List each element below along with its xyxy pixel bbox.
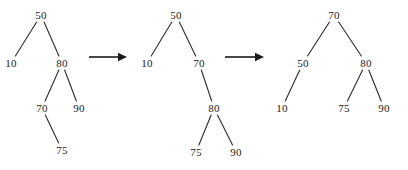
tree-edge [285, 70, 299, 101]
tree-edge [179, 22, 195, 56]
tree-node-label: 80 [360, 58, 372, 69]
tree-node-label: 10 [276, 103, 288, 114]
tree-node-label: 90 [230, 147, 242, 158]
tree-node-label: 90 [73, 103, 85, 114]
tree-node-label: 10 [5, 58, 17, 69]
tree-node-label: 50 [297, 58, 309, 69]
tree-edge [45, 115, 58, 143]
tree-node-label: 80 [56, 58, 68, 69]
tree-edge [339, 22, 362, 56]
tree-node-label: 50 [170, 10, 182, 21]
tree-edge [347, 70, 362, 101]
tree-node-label: 90 [378, 103, 390, 114]
tree-edge [308, 22, 330, 56]
tree-node-label: 70 [328, 10, 340, 21]
tree-edge [218, 115, 233, 145]
bst-rotation-figure: 501080709075501070807590705080107590 [0, 0, 408, 170]
transition-arrow-head [118, 53, 127, 61]
tree-edge [15, 22, 36, 56]
tree-node-label: 50 [35, 10, 47, 21]
tree-node-label: 75 [190, 147, 202, 158]
tree-node-label: 75 [56, 145, 68, 156]
tree-node-label: 10 [141, 58, 153, 69]
tree-edge [65, 70, 77, 101]
tree-node-label: 75 [338, 103, 350, 114]
transition-arrow-head [255, 53, 264, 61]
tree-node-label: 70 [193, 58, 205, 69]
tree-edge [44, 22, 59, 56]
tree-node-label: 70 [36, 103, 48, 114]
tree-edge [369, 70, 381, 101]
tree-edge [45, 70, 59, 101]
tree-edge [199, 115, 211, 145]
tree-edge [151, 22, 172, 56]
tree-edge [201, 70, 211, 101]
tree-node-label: 80 [208, 103, 220, 114]
